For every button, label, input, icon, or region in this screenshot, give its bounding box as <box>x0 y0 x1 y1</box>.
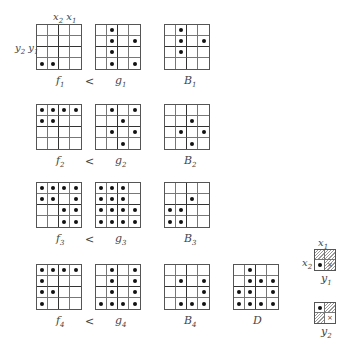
grid-cell <box>96 105 107 116</box>
grid-cell <box>48 205 59 216</box>
grid-cell <box>48 25 59 36</box>
grid-cell <box>176 205 187 216</box>
grid-cell <box>70 127 81 138</box>
dot-marker <box>133 130 137 134</box>
grid-g1-label: g1 <box>115 74 127 89</box>
grid-cell <box>129 183 140 194</box>
grid-cell <box>129 298 140 309</box>
dot-marker <box>74 108 78 112</box>
grid-cell <box>118 116 129 127</box>
grid-cell <box>176 58 187 69</box>
grid-cell <box>37 127 48 138</box>
dot-marker <box>51 268 55 272</box>
grid-cell <box>48 183 59 194</box>
grid-cell <box>118 265 129 276</box>
dot-marker <box>190 302 194 306</box>
dot-marker <box>179 220 183 224</box>
grid-f3 <box>36 182 82 228</box>
grid-cell <box>107 116 118 127</box>
grid-cell <box>198 265 209 276</box>
grid-cell <box>245 276 256 287</box>
grid-b4 <box>164 264 210 310</box>
grid-f3-label: f3 <box>56 232 65 247</box>
grid-cell <box>165 105 176 116</box>
grid-cell <box>118 194 129 205</box>
grid-cell <box>165 47 176 58</box>
grid-cell <box>37 183 48 194</box>
grid-cell <box>70 58 81 69</box>
grid-cell <box>70 116 81 127</box>
grid-cell <box>187 58 198 69</box>
dot-marker <box>51 197 55 201</box>
grid-cell <box>96 298 107 309</box>
grid-cell <box>70 205 81 216</box>
less-than-symbol: < <box>85 315 94 328</box>
grid-cell <box>48 265 59 276</box>
dot-marker <box>110 208 114 212</box>
grid-cell <box>165 36 176 47</box>
grid-cell <box>267 276 278 287</box>
grid-cell <box>37 116 48 127</box>
grid-cell <box>107 138 118 149</box>
grid-cell <box>37 205 48 216</box>
grid-cell <box>118 105 129 116</box>
grid-cell <box>48 47 59 58</box>
grid-cell <box>48 216 59 227</box>
grid-cell <box>70 276 81 287</box>
dot-marker <box>168 208 172 212</box>
grid-cell <box>118 205 129 216</box>
dot-marker <box>259 302 263 306</box>
grid-cell <box>107 287 118 298</box>
grid-cell <box>267 287 278 298</box>
grid-cell <box>96 25 107 36</box>
grid-cell <box>59 216 70 227</box>
dot-marker <box>133 108 137 112</box>
grid-cell <box>96 127 107 138</box>
grid-cell <box>59 47 70 58</box>
grid-cell <box>176 287 187 298</box>
grid-cell <box>70 36 81 47</box>
grid-g2 <box>95 104 141 150</box>
grid-cell <box>256 265 267 276</box>
grid-cell <box>198 298 209 309</box>
grid-cell <box>107 58 118 69</box>
grid-cell <box>165 138 176 149</box>
dot-marker <box>40 279 44 283</box>
dot-marker <box>51 119 55 123</box>
grid-g3-label: g3 <box>115 232 127 247</box>
dot-marker <box>121 220 125 224</box>
grid-cell <box>107 183 118 194</box>
grid-cell <box>176 216 187 227</box>
grid-cell <box>176 183 187 194</box>
grid-cell <box>187 276 198 287</box>
grid-cell <box>37 216 48 227</box>
dot-marker <box>99 302 103 306</box>
grid-cell <box>129 25 140 36</box>
grid-cell <box>234 265 245 276</box>
dot-marker <box>133 220 137 224</box>
legend-x1-label: x1 <box>318 237 328 251</box>
dot-marker <box>237 290 241 294</box>
grid-cell <box>96 205 107 216</box>
grid-cell <box>176 194 187 205</box>
dot-marker <box>51 186 55 190</box>
grid-cell <box>234 276 245 287</box>
grid-cell <box>245 265 256 276</box>
grid-cell <box>165 265 176 276</box>
grid-cell <box>129 265 140 276</box>
dot-marker <box>40 302 44 306</box>
dot-marker <box>248 268 252 272</box>
grid-f1-label: f1 <box>56 74 65 89</box>
dot-marker <box>51 62 55 66</box>
dot-marker <box>62 108 66 112</box>
less-than-symbol: < <box>85 155 94 168</box>
grid-cell <box>96 36 107 47</box>
grid-cell <box>187 127 198 138</box>
dot-marker <box>62 268 66 272</box>
legend-x2-label: x2 <box>302 257 312 271</box>
grid-cell <box>118 47 129 58</box>
grid-b1-label: B1 <box>184 74 197 89</box>
grid-cell <box>129 36 140 47</box>
dot-marker <box>133 39 137 43</box>
grid-b4-label: B4 <box>184 314 197 329</box>
